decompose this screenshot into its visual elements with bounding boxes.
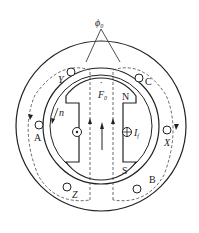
flux-arrow-down-right (174, 124, 179, 130)
coil-label-Z: Z (72, 189, 78, 200)
coil-label-Y: Y (58, 74, 65, 85)
flux-label: ϕ0 (95, 17, 103, 29)
machine-diagram: ϕ0 F0 · N S If n Y C A X B Z (0, 0, 199, 233)
speed-label: n (59, 107, 64, 118)
field-current-label: If (133, 127, 140, 139)
coil-B (133, 185, 141, 193)
coil-label-X: X (163, 137, 171, 148)
coil-Y (67, 68, 75, 76)
field-current-out-dot (76, 131, 78, 133)
coil-label-B: B (149, 174, 156, 185)
rotation-arrow-head (51, 118, 55, 124)
coil-label-A: A (34, 132, 42, 143)
coil-X (163, 126, 171, 134)
coil-Z (63, 183, 71, 191)
pole-north-label: N (122, 91, 129, 102)
flux-label-leader-left (86, 29, 101, 62)
coil-label-C: C (145, 76, 152, 87)
coil-A (35, 121, 43, 129)
pole-south-label: S (122, 165, 128, 176)
mmf-dot: · (100, 77, 103, 88)
flux-label-leader-right (101, 29, 120, 62)
coil-C (135, 74, 143, 82)
